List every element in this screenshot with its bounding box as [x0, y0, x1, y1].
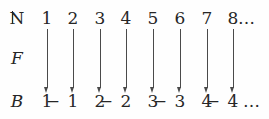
codomain-value: −1	[58, 93, 88, 110]
codomain-value: −3	[165, 93, 195, 110]
codomain-digit: 3	[175, 93, 186, 110]
domain-value: 2	[58, 10, 88, 27]
mapping-column: 2−1	[58, 0, 88, 119]
minus-sign: −	[46, 93, 60, 110]
codomain-label: B	[0, 93, 34, 110]
function-label: F	[0, 50, 34, 67]
codomain-digit: 4	[228, 93, 239, 110]
mapping-arrow-icon	[233, 29, 234, 88]
codomain-ellipsis: …	[243, 93, 261, 110]
mapping-arrow-icon	[180, 29, 181, 88]
mapping-arrow-icon	[100, 29, 101, 88]
mapping-column: 4−2	[111, 0, 141, 119]
mapping-arrow-icon	[153, 29, 154, 88]
mapping-arrow-icon	[73, 29, 74, 88]
mapping-arrow-icon	[207, 29, 208, 88]
domain-value: 6	[165, 10, 195, 27]
domain-value: 5	[138, 10, 168, 27]
minus-sign: −	[99, 93, 113, 110]
minus-sign: −	[153, 93, 167, 110]
codomain-value: −2	[111, 93, 141, 110]
minus-sign: −	[206, 93, 220, 110]
codomain-digit: 1	[68, 93, 79, 110]
bijection-diagram: N F B 112−1324−2536−3748−4 … …	[0, 0, 269, 119]
domain-ellipsis: …	[238, 10, 256, 27]
blackboard-n-glyph: N	[10, 10, 25, 27]
domain-label: N	[0, 10, 34, 27]
mapping-arrow-icon	[47, 29, 48, 88]
mapping-arrow-icon	[126, 29, 127, 88]
codomain-digit: 2	[121, 93, 132, 110]
mapping-column: 6−3	[165, 0, 195, 119]
domain-value: 4	[111, 10, 141, 27]
